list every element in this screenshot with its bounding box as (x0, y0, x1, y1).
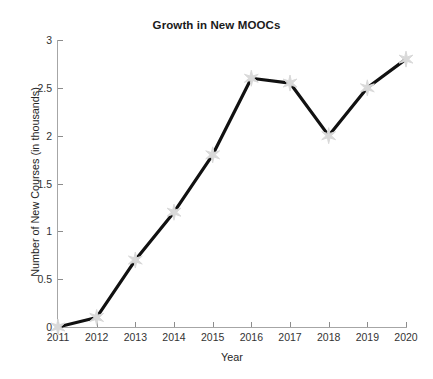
x-axis-label: Year (58, 351, 406, 363)
y-axis-label: Number of New Courses (in thousands) (29, 37, 41, 327)
series-markers (51, 51, 413, 335)
data-point-marker (399, 51, 413, 67)
data-series-layer (0, 0, 433, 379)
chart-figure: Growth in New MOOCs 00.511.522.53 201120… (0, 0, 433, 379)
series-line (58, 59, 406, 327)
